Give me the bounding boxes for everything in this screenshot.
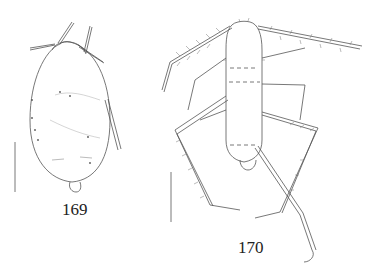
figure-number-170: 170 xyxy=(238,238,264,258)
figure-number-169: 169 xyxy=(62,200,88,220)
figure-170-drawing xyxy=(0,0,374,267)
